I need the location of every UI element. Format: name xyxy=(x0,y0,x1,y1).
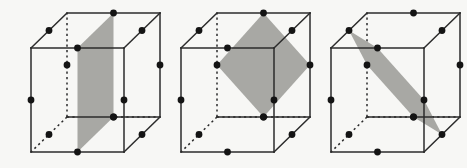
figure-canvas xyxy=(0,0,467,168)
edge-midpoint-dot xyxy=(374,149,381,156)
edge-midpoint-dot xyxy=(260,10,267,17)
edge-midpoint-dot xyxy=(364,62,371,69)
edge-midpoint-dot xyxy=(46,131,53,138)
edge-midpoint-dot xyxy=(121,97,128,104)
edge-midpoint-dot xyxy=(110,114,117,121)
edge-midpoint-dot xyxy=(289,27,296,34)
edge-midpoint-dot xyxy=(157,62,164,69)
edge-midpoint-dot xyxy=(224,149,231,156)
edge-midpoint-dot xyxy=(410,10,417,17)
edge-midpoint-dot xyxy=(224,45,231,52)
edge-midpoint-dot xyxy=(346,131,353,138)
edge-midpoint-dot xyxy=(410,114,417,121)
edge-midpoint-dot xyxy=(374,45,381,52)
edge-midpoint-dot xyxy=(439,131,446,138)
edge-midpoint-dot xyxy=(439,27,446,34)
edge-midpoint-dot xyxy=(346,27,353,34)
edge-midpoint-dot xyxy=(457,62,464,69)
edge-midpoint-dot xyxy=(196,27,203,34)
edge-midpoint-dot xyxy=(214,62,221,69)
cube-cross-section-figure xyxy=(0,0,467,168)
edge-midpoint-dot xyxy=(421,97,428,104)
edge-midpoint-dot xyxy=(74,149,81,156)
edge-midpoint-dot xyxy=(64,62,71,69)
edge-midpoint-dot xyxy=(46,27,53,34)
edge-midpoint-dot xyxy=(328,97,335,104)
edge-midpoint-dot xyxy=(260,114,267,121)
edge-midpoint-dot xyxy=(139,27,146,34)
edge-midpoint-dot xyxy=(28,97,35,104)
edge-midpoint-dot xyxy=(74,45,81,52)
edge-midpoint-dot xyxy=(307,62,314,69)
edge-midpoint-dot xyxy=(110,10,117,17)
edge-midpoint-dot xyxy=(289,131,296,138)
edge-midpoint-dot xyxy=(139,131,146,138)
edge-midpoint-dot xyxy=(196,131,203,138)
edge-midpoint-dot xyxy=(271,97,278,104)
edge-midpoint-dot xyxy=(178,97,185,104)
